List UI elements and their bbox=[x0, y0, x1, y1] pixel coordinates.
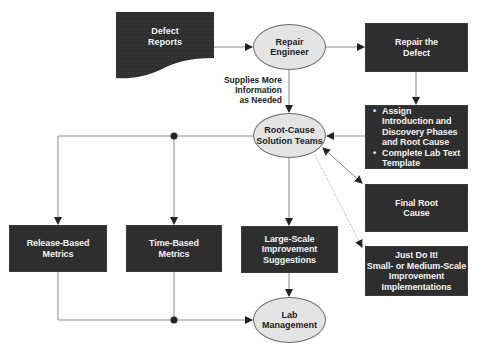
assign-tasks-bullet-2: Complete Lab Text Template bbox=[373, 148, 464, 169]
defect-reports-line-2: Reports bbox=[116, 37, 214, 48]
supplies-info-line-1: Supplies More bbox=[215, 75, 282, 85]
large-scale-line-1: Large-Scale bbox=[262, 234, 317, 245]
final-root-cause-line-1: Final Root bbox=[395, 198, 438, 209]
node-large-scale: Large-Scale Improvement Suggestions bbox=[241, 226, 338, 273]
node-root-cause-teams: Root-Cause Solution Teams bbox=[253, 113, 326, 158]
time-metrics-line-1: Time-Based bbox=[149, 238, 199, 249]
node-final-root-cause: Final Root Cause bbox=[365, 184, 468, 232]
release-metrics-line-2: Metrics bbox=[27, 249, 90, 260]
node-repair-defect: Repair the Defect bbox=[365, 23, 468, 72]
junction-dot-bottom bbox=[171, 317, 178, 324]
edge-rootcause-branch bbox=[58, 136, 253, 224]
assign-tasks-bullet-1: Assign Introduction and Discovery Phases… bbox=[373, 106, 464, 148]
lab-management-line-1: Lab bbox=[262, 310, 317, 321]
root-cause-line-2: Solution Teams bbox=[256, 136, 322, 147]
root-cause-line-1: Root-Cause bbox=[256, 125, 322, 136]
large-scale-line-3: Suggestions bbox=[262, 255, 317, 266]
assign-tasks-list: Assign Introduction and Discovery Phases… bbox=[365, 106, 468, 169]
supplies-info-line-2: Information bbox=[215, 85, 282, 95]
just-do-it-line-3: Improvement bbox=[367, 271, 466, 282]
just-do-it-line-1: Just Do It! bbox=[367, 250, 466, 261]
lab-management-line-2: Management bbox=[262, 320, 317, 331]
node-repair-engineer: Repair Engineer bbox=[253, 24, 326, 70]
edge-label-supplies-info: Supplies More Information as Needed bbox=[215, 75, 282, 105]
node-lab-management: Lab Management bbox=[253, 297, 326, 343]
just-do-it-line-2: Small- or Medium-Scale bbox=[367, 261, 466, 272]
supplies-info-line-3: as Needed bbox=[215, 95, 282, 105]
edge-rootcause-final bbox=[323, 148, 362, 183]
repair-defect-line-1: Repair the bbox=[395, 37, 438, 48]
final-root-cause-line-2: Cause bbox=[395, 208, 438, 219]
node-just-do-it: Just Do It! Small- or Medium-Scale Impro… bbox=[365, 246, 468, 296]
repair-engineer-line-2: Engineer bbox=[270, 47, 309, 58]
edge-metrics-merge bbox=[58, 272, 252, 320]
repair-defect-line-2: Defect bbox=[395, 48, 438, 59]
time-metrics-line-2: Metrics bbox=[149, 249, 199, 260]
release-metrics-line-1: Release-Based bbox=[27, 238, 90, 249]
large-scale-line-2: Improvement bbox=[262, 244, 317, 255]
junction-dot-top bbox=[171, 133, 178, 140]
defect-reports-line-1: Defect bbox=[116, 26, 214, 37]
just-do-it-line-4: Implementations bbox=[367, 282, 466, 293]
node-time-metrics: Time-Based Metrics bbox=[126, 225, 222, 272]
node-assign-tasks: Assign Introduction and Discovery Phases… bbox=[365, 105, 468, 169]
node-defect-reports: Defect Reports bbox=[116, 26, 214, 47]
repair-engineer-line-1: Repair bbox=[270, 37, 309, 48]
node-release-metrics: Release-Based Metrics bbox=[9, 225, 107, 272]
